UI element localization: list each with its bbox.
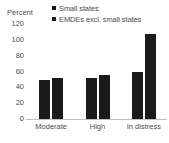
y-tick-label: 0 [4,115,24,123]
legend-item[interactable]: EMDEs excl. small states [52,14,168,24]
bar-chart: Percent Small statesEMDEs excl. small st… [0,0,169,143]
y-tick-label: 100 [4,36,24,44]
bar [86,78,97,119]
bar [132,72,143,119]
legend-swatch-icon [52,6,56,10]
y-axis-ticks: 120100806040200 [2,0,24,143]
bar [99,75,110,119]
legend-label: EMDEs excl. small states [59,15,141,24]
plot-area [28,24,167,119]
x-axis-labels: ModerateHighIn distress [28,122,167,136]
x-tick-label: In distress [121,122,167,132]
legend-swatch-icon [52,17,56,21]
bar [52,78,63,119]
bar [145,34,156,119]
x-axis-line [26,119,167,120]
legend-item[interactable]: Small states [52,3,168,13]
y-tick-label: 60 [4,68,24,76]
legend-label: Small states [59,4,99,13]
y-tick-label: 20 [4,99,24,107]
y-tick-label: 40 [4,83,24,91]
bar [39,80,50,119]
x-tick-label: Moderate [28,122,74,132]
chart-legend: Small statesEMDEs excl. small states [52,3,168,25]
x-tick-label: High [74,122,120,132]
y-tick-label: 120 [4,20,24,28]
y-tick-label: 80 [4,52,24,60]
